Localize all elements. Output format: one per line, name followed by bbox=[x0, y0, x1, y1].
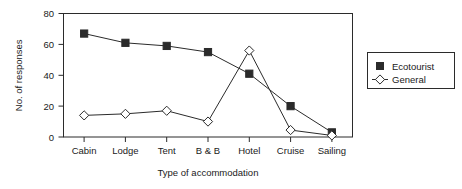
data-point-marker-square bbox=[163, 42, 170, 49]
data-point-marker-square bbox=[287, 103, 294, 110]
x-label-sailing: Sailing bbox=[318, 145, 347, 156]
legend-label-general: General bbox=[392, 74, 426, 85]
y-tick-label-60: 60 bbox=[43, 39, 54, 50]
line-chart-figure: 80 60 40 20 0 No. of responses Cabin Lod… bbox=[0, 0, 462, 189]
x-label-cruise: Cruise bbox=[277, 145, 304, 156]
data-point-marker-diamond bbox=[121, 109, 130, 118]
x-label-cabin: Cabin bbox=[72, 145, 97, 156]
chart-canvas: 80 60 40 20 0 No. of responses Cabin Lod… bbox=[0, 0, 462, 189]
data-point-marker-diamond bbox=[203, 117, 212, 126]
y-tick-label-40: 40 bbox=[43, 70, 54, 81]
y-axis-ticks bbox=[59, 14, 64, 138]
x-label-hotel: Hotel bbox=[238, 145, 260, 156]
series-general bbox=[80, 46, 337, 140]
y-tick-label-20: 20 bbox=[43, 101, 54, 112]
x-axis-tick-labels: Cabin Lodge Tent B & B Hotel Cruise Sail… bbox=[72, 145, 346, 156]
data-point-marker-diamond bbox=[80, 111, 89, 120]
legend-label-ecotourist: Ecotourist bbox=[392, 61, 435, 72]
data-point-marker-diamond bbox=[286, 125, 295, 134]
x-label-tent: Tent bbox=[158, 145, 176, 156]
data-point-marker-square bbox=[204, 48, 211, 55]
y-axis-title: No. of responses bbox=[13, 39, 24, 111]
data-point-marker-square bbox=[122, 39, 129, 46]
x-axis-ticks bbox=[84, 137, 332, 142]
y-tick-label-80: 80 bbox=[43, 8, 54, 19]
x-label-bandb: B & B bbox=[196, 145, 220, 156]
filled-square-marker-icon bbox=[377, 63, 384, 70]
y-axis-tick-labels: 80 60 40 20 0 bbox=[43, 8, 54, 143]
x-label-lodge: Lodge bbox=[112, 145, 138, 156]
data-point-marker-diamond bbox=[162, 106, 171, 115]
data-point-marker-square bbox=[246, 70, 253, 77]
data-point-marker-square bbox=[81, 30, 88, 37]
chart-legend: Ecotourist General bbox=[368, 53, 455, 89]
data-point-marker-diamond bbox=[245, 46, 254, 55]
series-layer bbox=[80, 30, 337, 140]
x-axis-title: Type of accommodation bbox=[158, 167, 259, 178]
y-tick-label-0: 0 bbox=[49, 132, 54, 143]
